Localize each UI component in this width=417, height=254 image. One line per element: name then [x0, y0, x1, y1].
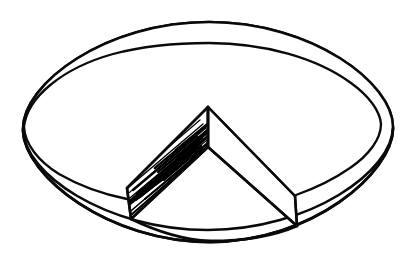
illustration-canvas: Hand-drawn 3D pie with cut-out wedge: [0, 0, 417, 254]
pie-wedge-figure: Hand-drawn 3D pie with cut-out wedge: [0, 0, 417, 254]
